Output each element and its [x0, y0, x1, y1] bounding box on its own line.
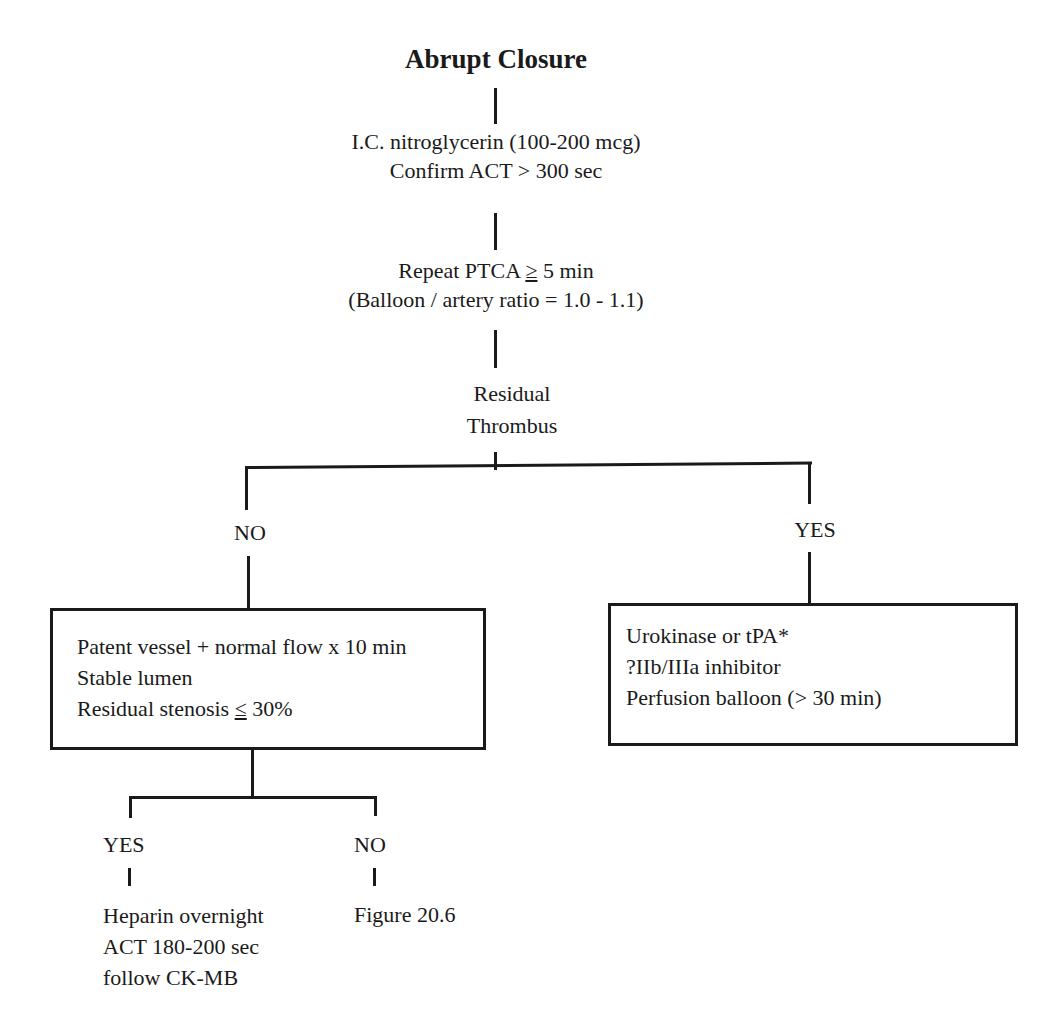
connector-subsplit-to-yes [129, 797, 132, 818]
sub-branch-label-yes: YES [103, 830, 145, 859]
sub-yes-tick [128, 868, 131, 886]
sub-no-outcome: Figure 20.6 [354, 900, 455, 929]
stenosis-lte-symbol: ≤ [235, 696, 247, 721]
connector-subsplit-to-no [374, 797, 377, 816]
box-thrombolytic-line-1: Urokinase or tPA* [626, 620, 1015, 651]
box-thrombolytic-line-2: ?IIb/IIIa inhibitor [626, 651, 1015, 682]
connector-nitro-to-ptca [494, 213, 497, 250]
box-patent-line-1: Patent vessel + normal flow x 10 min [77, 631, 483, 662]
sub-yes-line-3: follow CK-MB [103, 962, 264, 993]
connector-ptca-to-decision [494, 330, 497, 368]
branch-label-no: NO [234, 518, 266, 547]
ptca-suffix: 5 min [537, 258, 593, 283]
connector-box-to-subsplit [251, 749, 254, 799]
box-thrombolytic: Urokinase or tPA* ?IIb/IIIa inhibitor Pe… [608, 603, 1018, 746]
sub-yes-outcome: Heparin overnight ACT 180-200 sec follow… [103, 900, 264, 993]
connector-split-to-no [245, 468, 248, 510]
sub-no-tick [373, 868, 376, 886]
step-nitroglycerin-line-1: I.C. nitroglycerin (100-200 mcg) [352, 127, 641, 156]
connector-no-to-box [247, 556, 250, 610]
connector-split-to-yes [808, 463, 811, 504]
box-patent-line-2: Stable lumen [77, 662, 483, 693]
decision-line-2: Thrombus [467, 410, 557, 442]
step-ptca-line-2: (Balloon / artery ratio = 1.0 - 1.1) [348, 285, 643, 314]
step-nitroglycerin: I.C. nitroglycerin (100-200 mcg) Confirm… [352, 127, 641, 185]
stenosis-prefix: Residual stenosis [77, 696, 235, 721]
connector-title-to-nitro [494, 88, 497, 124]
box-patent-line-3: Residual stenosis ≤ 30% [77, 693, 483, 724]
decision-residual-thrombus: Residual Thrombus [467, 378, 557, 442]
step-ptca-line-1: Repeat PTCA ≥ 5 min [348, 256, 643, 285]
sub-no-line-1[interactable]: Figure 20.6 [354, 900, 455, 929]
sub-yes-line-2: ACT 180-200 sec [103, 931, 264, 962]
ptca-prefix: Repeat PTCA [398, 258, 525, 283]
split-line-main [245, 462, 812, 469]
step-nitroglycerin-line-2: Confirm ACT > 300 sec [352, 156, 641, 185]
ptca-gte-symbol: ≥ [525, 258, 537, 283]
connector-yes-to-box [808, 552, 811, 605]
step-repeat-ptca: Repeat PTCA ≥ 5 min (Balloon / artery ra… [348, 256, 643, 314]
box-thrombolytic-line-3: Perfusion balloon (> 30 min) [626, 682, 1015, 713]
sub-branch-label-no: NO [354, 830, 386, 859]
branch-label-yes: YES [794, 515, 836, 544]
flowchart-title: Abrupt Closure [405, 44, 587, 75]
split-line-sub [129, 796, 377, 799]
sub-yes-line-1: Heparin overnight [103, 900, 264, 931]
box-patent-vessel: Patent vessel + normal flow x 10 min Sta… [50, 608, 486, 750]
stenosis-suffix: 30% [247, 696, 293, 721]
connector-decision-to-split [494, 452, 497, 470]
decision-line-1: Residual [467, 378, 557, 410]
